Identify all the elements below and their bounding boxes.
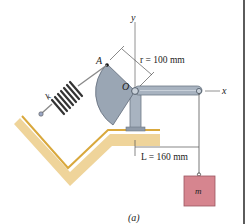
x-axis-label: x — [221, 85, 227, 96]
pulley-pin — [196, 88, 201, 93]
spring-rod-lower — [42, 104, 52, 113]
length-label: L = 160 mm — [141, 152, 189, 162]
mechanism-diagram: y x O A r = 100 mm k L = — [0, 0, 250, 224]
spring-anchor — [39, 112, 43, 116]
pivot-O — [132, 88, 139, 95]
y-axis-label: y — [130, 12, 136, 23]
cam — [96, 64, 135, 125]
radius-label: r = 100 mm — [140, 55, 185, 65]
point-A-label: A — [95, 55, 103, 66]
figure-caption: (a) — [128, 212, 140, 224]
point-O-label: O — [122, 81, 129, 92]
mass-label: m — [195, 186, 202, 196]
spring — [52, 82, 82, 114]
